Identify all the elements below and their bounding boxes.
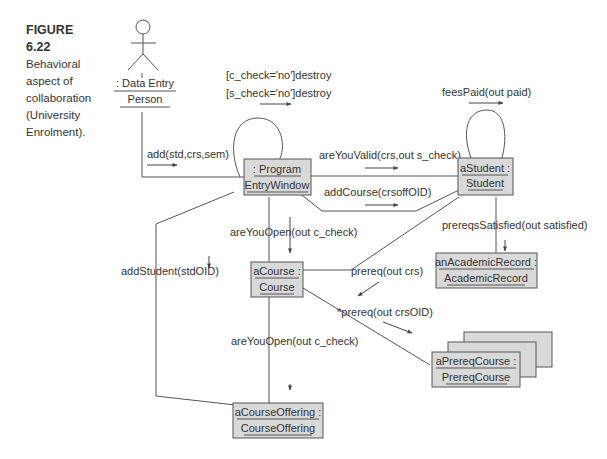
object-course-offering: aCourseOffering : CourseOffering [233, 403, 323, 438]
message-are-you-valid: areYouValid(crs,out s_check) [319, 149, 461, 161]
actor-icon [128, 20, 158, 78]
svg-text:anAcademicRecord :: anAcademicRecord : [435, 256, 537, 268]
svg-text:aCourseOffering :: aCourseOffering : [235, 406, 322, 418]
svg-text:aCourse :: aCourse : [253, 265, 301, 277]
object-student: aStudent : Student [458, 158, 513, 195]
actor-name-line2: Person [128, 93, 163, 105]
object-program-entry-window: : Program EntryWindow [244, 159, 311, 195]
message-add: add(std,crs,sem) [147, 148, 229, 160]
message-add-student: addStudent(stdOID) [121, 265, 219, 277]
svg-text:AcademicRecord: AcademicRecord [444, 272, 528, 284]
message-c-destroy: [c_check='no']destroy [226, 69, 332, 81]
message-are-you-open-1: areYouOpen(out c_check) [230, 226, 357, 238]
svg-text:PrereqCourse: PrereqCourse [442, 371, 510, 383]
message-are-you-open-2: areYouOpen(out c_check) [231, 335, 358, 347]
message-add-course: addCourse(crsoffOID) [324, 186, 431, 198]
svg-text:Student: Student [466, 177, 504, 189]
object-academic-record: anAcademicRecord : AcademicRecord [435, 253, 537, 288]
svg-text:aStudent :: aStudent : [460, 162, 510, 174]
actor-name-line1: : Data Entry [116, 77, 175, 89]
message-prereqs-satisfied: prereqsSatisfied(out satisfied) [442, 219, 588, 231]
object-course: aCourse : Course [251, 262, 303, 297]
message-fees-paid: feesPaid(out paid) [442, 86, 531, 98]
message-prereq-iter: *prereq(out crsOID) [337, 306, 433, 318]
svg-text:Course: Course [259, 281, 294, 293]
svg-text:CourseOffering: CourseOffering [241, 422, 315, 434]
svg-text:aPrereqCourse :: aPrereqCourse : [436, 355, 517, 367]
svg-text:EntryWindow: EntryWindow [245, 179, 310, 191]
message-s-destroy: [s_check='no']destroy [226, 87, 332, 99]
collaboration-diagram: : Data Entry Person [c_check='no']destro… [0, 0, 607, 459]
message-prereq: prereq(out crs) [351, 265, 423, 277]
svg-text:: Program: : Program [253, 163, 301, 175]
object-prereq-course: aPrereqCourse : PrereqCourse [432, 332, 552, 387]
